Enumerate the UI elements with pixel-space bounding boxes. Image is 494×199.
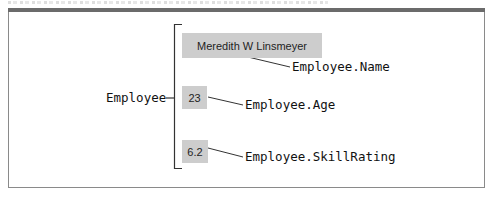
root-label: Employee: [106, 91, 166, 105]
age-value-box: 23: [182, 86, 207, 109]
age-label: Employee.Age: [245, 98, 335, 112]
skillrating-value: 6.2: [187, 146, 202, 158]
age-connector: [208, 97, 243, 105]
age-value: 23: [188, 92, 200, 104]
skillrating-value-box: 6.2: [182, 140, 208, 163]
name-value: Meredith W Linsmeyer: [197, 40, 307, 52]
name-connector: [250, 58, 290, 68]
name-label: Employee.Name: [292, 60, 390, 74]
name-value-box: Meredith W Linsmeyer: [182, 33, 322, 58]
skillrating-connector: [208, 148, 243, 157]
member-bracket: [175, 25, 183, 169]
skillrating-label: Employee.SkillRating: [245, 150, 396, 164]
